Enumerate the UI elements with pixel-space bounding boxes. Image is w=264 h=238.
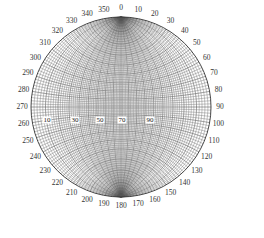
azimuth-label: 270 xyxy=(16,103,27,111)
azimuth-label: 190 xyxy=(98,201,109,209)
azimuth-label: 230 xyxy=(40,167,51,175)
stereonet-diagram: 0102030405060708090100110120130140150160… xyxy=(0,0,264,238)
azimuth-label: 280 xyxy=(18,86,29,94)
azimuth-label: 340 xyxy=(82,10,93,18)
azimuth-label: 140 xyxy=(179,179,190,187)
azimuth-label: 330 xyxy=(66,18,77,26)
azimuth-label: 300 xyxy=(30,54,41,62)
azimuth-label: 150 xyxy=(165,189,176,197)
grid-lines xyxy=(31,17,211,197)
azimuth-label: 180 xyxy=(115,202,126,210)
azimuth-label: 250 xyxy=(22,137,33,145)
azimuth-label: 50 xyxy=(193,40,201,48)
azimuth-label: 100 xyxy=(213,120,224,128)
azimuth-label: 160 xyxy=(149,196,160,204)
azimuth-label: 170 xyxy=(133,201,144,209)
azimuth-label: 350 xyxy=(98,6,109,14)
dip-label: 70 xyxy=(118,117,127,124)
azimuth-label: 310 xyxy=(40,40,51,48)
azimuth-label: 290 xyxy=(22,69,33,77)
azimuth-label: 200 xyxy=(82,196,93,204)
azimuth-label: 130 xyxy=(191,167,202,175)
azimuth-label: 10 xyxy=(134,6,142,14)
dip-label: 50 xyxy=(96,117,105,124)
azimuth-label: 60 xyxy=(203,54,211,62)
azimuth-label: 220 xyxy=(52,179,63,187)
azimuth-label: 120 xyxy=(201,153,212,161)
dip-label: 90 xyxy=(146,117,155,124)
dip-label: 10 xyxy=(43,117,52,124)
azimuth-label: 90 xyxy=(216,103,224,111)
azimuth-label: 210 xyxy=(66,189,77,197)
azimuth-label: 110 xyxy=(209,137,220,145)
azimuth-label: 80 xyxy=(215,86,223,94)
azimuth-label: 40 xyxy=(181,27,189,35)
azimuth-label: 20 xyxy=(151,10,159,18)
dip-label: 30 xyxy=(71,117,80,124)
azimuth-label: 70 xyxy=(210,69,218,77)
azimuth-label: 0 xyxy=(119,4,123,12)
azimuth-label: 320 xyxy=(52,27,63,35)
azimuth-label: 240 xyxy=(30,153,41,161)
azimuth-label: 30 xyxy=(167,18,175,26)
azimuth-label: 260 xyxy=(18,120,29,128)
